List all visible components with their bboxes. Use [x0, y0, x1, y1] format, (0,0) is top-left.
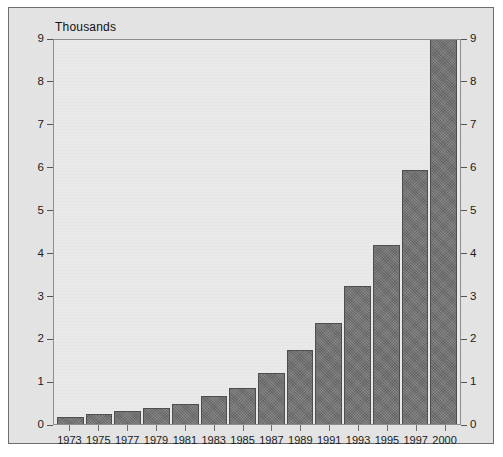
bar	[201, 396, 228, 424]
y-axis-tick-mark	[461, 253, 467, 254]
y-axis-tick-label: 0	[470, 419, 476, 431]
x-axis-tick-mark	[229, 425, 256, 432]
y-axis-tick-label: 2	[470, 333, 476, 345]
y-axis-tick-label: 2	[38, 333, 44, 345]
y-axis-tick-label: 5	[470, 205, 476, 217]
y-axis-tick-label: 5	[38, 205, 44, 217]
y-axis-tick-label: 6	[470, 162, 476, 174]
bar	[57, 417, 84, 424]
unit-label: Thousands	[55, 20, 116, 34]
x-axis-tick-mark	[114, 425, 141, 432]
y-axis-tick-label: 8	[38, 76, 44, 88]
plot-area	[53, 39, 461, 425]
y-axis-tick-label: 1	[470, 376, 476, 388]
x-axis-tick-mark	[345, 425, 372, 432]
x-axis-tick-mark	[200, 425, 227, 432]
y-axis-tick-label: 4	[38, 248, 44, 260]
x-axis-labels: 1973197519771979198119831985198719891991…	[53, 433, 461, 451]
x-axis-tick-mark	[143, 425, 170, 432]
x-axis-tick-mark	[171, 425, 198, 432]
y-axis-tick-mark	[461, 167, 467, 168]
x-axis-tick-label: 1987	[258, 433, 285, 451]
x-axis-tick-label: 1993	[345, 433, 372, 451]
figure-frame: Thousands 0123456789 0123456789 19731975…	[8, 7, 494, 444]
y-axis-tick-label: 6	[38, 162, 44, 174]
bar	[287, 350, 314, 424]
y-axis-tick-label: 9	[38, 33, 44, 45]
x-axis-tick-mark	[85, 425, 112, 432]
x-axis-tick-label: 1991	[316, 433, 343, 451]
x-axis-tick-mark	[373, 425, 400, 432]
y-axis-tick-mark	[461, 39, 467, 40]
x-axis-tick-label: 1973	[56, 433, 83, 451]
x-axis-tick-mark	[402, 425, 429, 432]
bar	[258, 373, 285, 424]
y-axis-tick-mark	[461, 382, 467, 383]
x-axis-tick-label: 1985	[229, 433, 256, 451]
y-axis-right: 0123456789	[461, 39, 503, 425]
y-axis-tick-mark	[461, 339, 467, 340]
bar	[373, 245, 400, 424]
y-axis-left: 0123456789	[11, 39, 53, 425]
bar	[114, 411, 141, 424]
chart-figure: Thousands 0123456789 0123456789 19731975…	[0, 0, 503, 457]
x-axis-tick-mark	[258, 425, 285, 432]
x-axis-tick-mark	[56, 425, 83, 432]
x-axis-tick-label: 1989	[287, 433, 314, 451]
y-axis-tick-label: 7	[470, 119, 476, 131]
bar	[402, 170, 429, 424]
x-axis-tick-label: 1975	[85, 433, 112, 451]
bar	[86, 414, 113, 424]
x-axis-ticks	[53, 425, 461, 432]
x-axis-tick-mark	[431, 425, 458, 432]
y-axis-tick-mark	[461, 81, 467, 82]
y-axis-tick-mark	[461, 296, 467, 297]
x-axis-tick-label: 1997	[402, 433, 429, 451]
x-axis-tick-label: 1979	[143, 433, 170, 451]
x-axis-tick-mark	[316, 425, 343, 432]
x-axis-tick-label: 1981	[171, 433, 198, 451]
x-axis-tick-label: 1977	[114, 433, 141, 451]
bar-series	[54, 40, 460, 424]
x-axis-tick-label: 2000	[431, 433, 458, 451]
bar	[430, 39, 457, 424]
y-axis-tick-mark	[461, 124, 467, 125]
y-axis-tick-label: 9	[470, 33, 476, 45]
bar	[172, 404, 199, 424]
x-axis-tick-label: 1983	[200, 433, 227, 451]
y-axis-tick-label: 3	[470, 291, 476, 303]
plot-wrapper	[53, 39, 461, 425]
y-axis-tick-label: 8	[470, 76, 476, 88]
bar	[229, 388, 256, 424]
y-axis-tick-label: 0	[38, 419, 44, 431]
y-axis-tick-label: 3	[38, 291, 44, 303]
y-axis-tick-mark	[461, 210, 467, 211]
x-axis-tick-mark	[287, 425, 314, 432]
bar	[315, 323, 342, 424]
y-axis-tick-mark	[461, 425, 467, 426]
bar	[143, 408, 170, 424]
y-axis-tick-label: 1	[38, 376, 44, 388]
y-axis-tick-label: 4	[470, 248, 476, 260]
y-axis-tick-label: 7	[38, 119, 44, 131]
bar	[344, 286, 371, 424]
x-axis-tick-label: 1995	[373, 433, 400, 451]
